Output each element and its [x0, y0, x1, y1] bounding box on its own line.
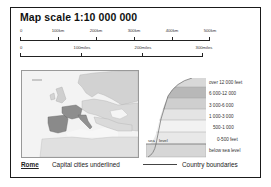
km-tick-label: 200km — [90, 28, 103, 33]
km-tick — [96, 37, 97, 40]
km-tick — [58, 37, 59, 40]
km-tick — [134, 37, 135, 40]
elevation-band-label: 3 000-6 000 — [209, 103, 234, 108]
miles-tick — [202, 53, 203, 56]
europe-map-graphic — [22, 71, 138, 157]
sea-label: sea — [148, 138, 155, 143]
km-tick-label: 0 — [20, 28, 22, 33]
miles-tick-label: 200miles — [135, 45, 152, 50]
elevation-band-label: 500-1 000 — [213, 125, 234, 130]
elevation-band-label: 0-500 feet — [217, 137, 238, 142]
miles-tick-label: 0 — [20, 45, 22, 50]
km-tick-label: 100km — [52, 28, 65, 33]
km-tick-label: 300km — [128, 28, 141, 33]
km-tick — [20, 37, 21, 40]
elevation-band-label: over 12 000 feet — [209, 80, 242, 85]
country-boundaries-note: Country boundaries — [182, 161, 238, 168]
elevation-key-diagram: sea level — [146, 78, 206, 158]
km-scale-line — [20, 40, 210, 41]
miles-tick — [20, 53, 21, 56]
level-label: level — [159, 138, 168, 143]
capital-cities-note: Capital cities underlined — [52, 161, 120, 168]
country-boundary-line-sample — [143, 164, 177, 165]
elevation-band-label: 1 000-3 000 — [209, 114, 234, 119]
km-tick — [172, 37, 173, 40]
elevation-curve-graphic — [146, 78, 206, 158]
miles-tick — [142, 53, 143, 56]
capital-city-example: Rome — [21, 161, 39, 168]
miles-scale-line — [20, 56, 203, 57]
km-tick-label: 400km — [166, 28, 179, 33]
elevation-band-label: below sea level — [209, 148, 240, 153]
miles-tick-label: 300miles — [196, 45, 213, 50]
miles-tick-label: 100miles — [74, 45, 91, 50]
map-scale-title: Map scale 1:10 000 000 — [20, 11, 137, 23]
km-tick — [209, 37, 210, 40]
elevation-band-label: 6 000-12 000 — [209, 91, 236, 96]
km-tick-label: 500km — [204, 28, 217, 33]
europe-locator-map — [21, 70, 139, 158]
miles-tick — [81, 53, 82, 56]
